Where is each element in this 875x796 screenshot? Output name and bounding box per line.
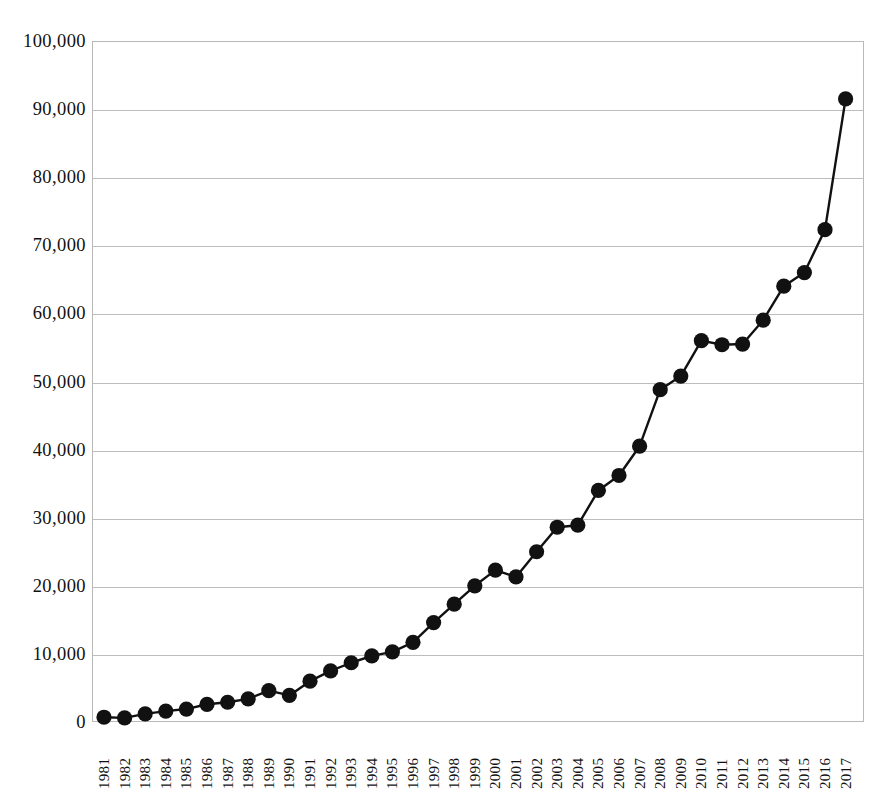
x-axis-tick-label: 2012 <box>736 733 750 789</box>
x-axis-tick-label: 2000 <box>488 733 502 789</box>
x-axis-tick-label: 1997 <box>427 733 441 789</box>
x-axis-tick-label: 2001 <box>509 733 523 789</box>
x-axis-tick-label: 1986 <box>200 733 214 789</box>
x-axis-tick-label: 1996 <box>406 733 420 789</box>
x-axis-tick-label: 1991 <box>303 733 317 789</box>
x-axis-tick-label: 2015 <box>797 733 811 789</box>
x-axis-tick-label: 2005 <box>591 733 605 789</box>
x-axis-tick-label: 1989 <box>262 733 276 789</box>
x-axis-tick-label: 1995 <box>385 733 399 789</box>
x-axis-tick-label: 2010 <box>694 733 708 789</box>
x-axis-tick-label: 2013 <box>756 733 770 789</box>
x-axis-tick-label: 2016 <box>818 733 832 789</box>
x-axis-tick-label: 1987 <box>221 733 235 789</box>
x-axis-tick-label: 2003 <box>550 733 564 789</box>
x-axis-tick-label: 2017 <box>839 733 853 789</box>
x-axis-tick-label: 2002 <box>530 733 544 789</box>
x-axis-tick-label: 2011 <box>715 733 729 789</box>
x-axis-tick-label: 1992 <box>324 733 338 789</box>
x-axis-tick-label: 2004 <box>571 733 585 789</box>
chart-figure: 010,00020,00030,00040,00050,00060,00070,… <box>0 0 875 796</box>
x-axis-tick-label: 1994 <box>365 733 379 789</box>
x-axis-tick-label: 1983 <box>138 733 152 789</box>
x-axis-tick-label: 1988 <box>241 733 255 789</box>
x-axis-tick-label: 1999 <box>468 733 482 789</box>
x-axis-tick-label: 2014 <box>777 733 791 789</box>
x-axis-tick-label: 1998 <box>447 733 461 789</box>
x-axis-tick-label: 1982 <box>118 733 132 789</box>
x-axis-tick-label: 1984 <box>159 733 173 789</box>
x-axis-tick-label: 1993 <box>344 733 358 789</box>
x-axis: 1981198219831984198519861987198819891990… <box>0 0 875 796</box>
x-axis-tick-label: 1985 <box>179 733 193 789</box>
x-axis-tick-label: 2009 <box>674 733 688 789</box>
x-axis-tick-label: 2007 <box>633 733 647 789</box>
x-axis-tick-label: 2008 <box>653 733 667 789</box>
x-axis-tick-label: 1990 <box>282 733 296 789</box>
x-axis-tick-label: 2006 <box>612 733 626 789</box>
x-axis-tick-label: 1981 <box>97 733 111 789</box>
